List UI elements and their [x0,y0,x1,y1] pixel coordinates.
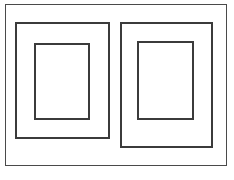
left-frame-outer-rect [16,23,109,138]
diagram-canvas [0,0,234,180]
right-frame-inner-rect [138,42,193,119]
nested-rectangles-diagram [0,0,234,180]
left-frame-inner-rect [35,44,89,119]
